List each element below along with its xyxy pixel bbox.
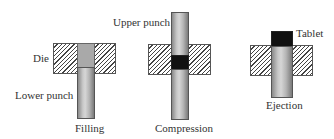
die-left-block [250,45,272,76]
tablet-label: Tablet [296,28,323,39]
die-right-block [292,45,313,76]
stage-ejection: Tablet Ejection [0,0,334,139]
ejected-tablet [271,31,293,47]
lower-punch [271,46,293,98]
ejection-caption: Ejection [266,100,303,111]
